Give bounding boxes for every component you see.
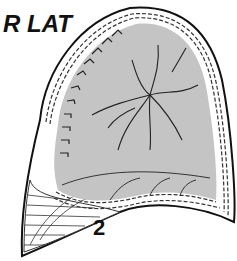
view-label: R LAT bbox=[3, 10, 72, 38]
lung-illustration bbox=[0, 0, 237, 261]
region-number-label: 2 bbox=[93, 215, 105, 241]
